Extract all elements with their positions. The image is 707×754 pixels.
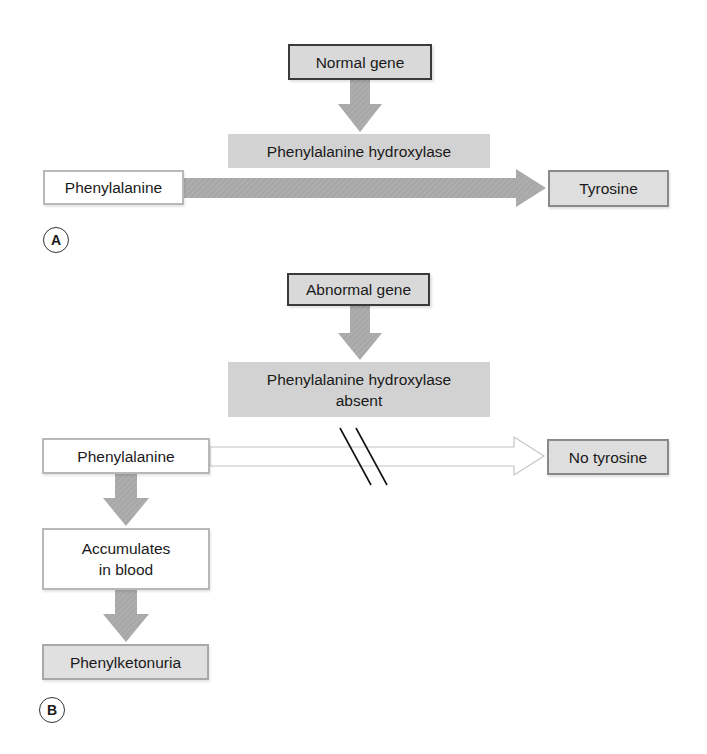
no-tyrosine-label: No tyrosine [569,447,647,468]
panel-label-a-text: A [51,232,61,248]
arrow-right-blocked-hollow [210,437,544,475]
phenylalanine-label-a: Phenylalanine [65,177,162,198]
tyrosine-box: Tyrosine [548,170,669,207]
no-tyrosine-box: No tyrosine [547,439,669,475]
enzyme-label-b-line1: Phenylalanine hydroxylase [267,369,451,390]
abnormal-gene-box: Abnormal gene [287,273,430,306]
panel-label-a: A [43,227,69,253]
enzyme-absent-box: Phenylalanine hydroxylase absent [228,362,490,417]
arrow-down-gene-to-enzyme-a [338,80,382,132]
panel-label-b: B [39,697,65,723]
phenylketonuria-label: Phenylketonuria [70,652,181,673]
accumulates-label-line1: Accumulates [82,538,171,559]
panel-label-b-text: B [47,702,57,718]
arrow-down-gene-to-enzyme-b [338,305,382,360]
arrow-down-phenylalanine-to-accumulates [103,474,149,526]
normal-gene-label: Normal gene [316,52,405,73]
tyrosine-label: Tyrosine [579,178,638,199]
normal-gene-box: Normal gene [288,44,432,80]
phenylketonuria-box: Phenylketonuria [42,644,209,680]
enzyme-box-a: Phenylalanine hydroxylase [228,134,490,168]
phenylalanine-box-b: Phenylalanine [42,438,210,474]
arrow-down-accumulates-to-pku [103,590,149,642]
phenylalanine-label-b: Phenylalanine [77,446,174,467]
arrow-right-phenylalanine-to-tyrosine [184,169,546,207]
enzyme-label-b-line2: absent [336,390,383,411]
accumulates-label-line2: in blood [99,559,153,580]
accumulates-box: Accumulates in blood [42,528,210,590]
abnormal-gene-label: Abnormal gene [306,279,411,300]
phenylalanine-box-a: Phenylalanine [43,170,184,205]
enzyme-label-a: Phenylalanine hydroxylase [267,141,451,162]
